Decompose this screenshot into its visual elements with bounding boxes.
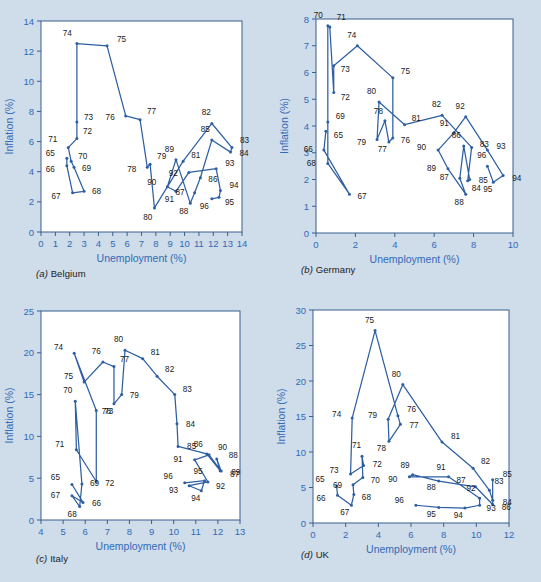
point-label-73: 73 [329, 466, 339, 475]
point-label-96: 96 [477, 151, 487, 160]
x-tick-label: 14 [237, 238, 248, 249]
point-label-80: 80 [367, 87, 377, 96]
point-label-85: 85 [201, 125, 211, 134]
plot-area [316, 19, 513, 233]
data-point [350, 504, 353, 507]
data-point [441, 114, 444, 117]
y-tick-label: 8 [304, 14, 309, 25]
data-point [75, 448, 78, 451]
x-tick-label: 11 [194, 238, 204, 249]
panel-uk: 051015202530024681012Unemployment (%)Inf… [271, 291, 541, 582]
y-tick-label: 8 [29, 106, 34, 117]
data-point [378, 100, 381, 103]
data-point [437, 480, 440, 483]
point-label-71: 71 [352, 441, 362, 450]
point-label-81: 81 [412, 114, 422, 123]
data-point [218, 196, 221, 199]
point-label-93: 93 [496, 142, 506, 151]
data-point [356, 44, 359, 47]
x-tick-label: 6 [432, 239, 437, 250]
point-label-79: 79 [357, 138, 367, 147]
caption-country: Germany [313, 264, 356, 275]
point-label-88: 88 [455, 198, 465, 207]
y-tick-label: 30 [295, 305, 306, 316]
data-point [446, 167, 449, 170]
point-label-94: 94 [454, 511, 464, 520]
data-point [408, 475, 411, 478]
point-label-65: 65 [316, 475, 326, 484]
data-point [139, 118, 142, 121]
data-point [437, 149, 440, 152]
x-axis-label: Unemployment (%) [96, 540, 186, 552]
point-label-85: 85 [503, 470, 513, 479]
data-point [376, 138, 379, 141]
point-label-72: 72 [105, 479, 115, 488]
point-label-66: 66 [304, 145, 314, 154]
data-point [387, 141, 390, 144]
point-label-88: 88 [427, 483, 437, 492]
point-label-69: 69 [82, 164, 92, 173]
data-point [193, 191, 196, 194]
data-point [67, 146, 70, 149]
point-label-65: 65 [46, 149, 56, 158]
point-label-90: 90 [417, 143, 427, 152]
data-point [326, 120, 329, 123]
data-point [348, 193, 351, 196]
data-point [220, 470, 223, 473]
point-label-81: 81 [151, 348, 161, 357]
point-label-89: 89 [427, 164, 437, 173]
data-point [362, 464, 365, 467]
y-tick-label: 6 [304, 67, 309, 78]
point-label-93: 93 [169, 486, 179, 495]
point-label-95: 95 [194, 467, 204, 476]
point-label-74: 74 [54, 343, 64, 352]
data-point [396, 414, 399, 417]
point-label-79: 79 [368, 411, 378, 420]
panel-germany: 0123456780246810Unemployment (%)Inflatio… [271, 0, 541, 291]
y-tick-label: 25 [23, 306, 34, 317]
data-point [70, 494, 73, 497]
caption-letter: (d) [301, 549, 313, 560]
point-label-90: 90 [388, 475, 398, 484]
point-label-91: 91 [436, 463, 446, 472]
y-tick-label: 4 [29, 166, 34, 177]
point-label-70: 70 [314, 11, 324, 20]
data-point [210, 122, 213, 125]
data-point [177, 445, 180, 448]
point-label-71: 71 [48, 135, 58, 144]
data-point [65, 157, 68, 160]
data-point [200, 489, 203, 492]
y-axis-label: Inflation (%) [3, 387, 15, 443]
data-point [478, 504, 481, 507]
x-tick-label: 11 [191, 526, 201, 537]
data-point [326, 162, 329, 165]
data-point [352, 483, 355, 486]
caption-germany: (b) Germany [301, 264, 355, 275]
point-label-87: 87 [440, 173, 450, 182]
data-point [182, 160, 185, 163]
point-label-92: 92 [466, 484, 476, 493]
data-point [183, 481, 186, 484]
point-label-91: 91 [174, 455, 184, 464]
data-point [210, 197, 213, 200]
point-label-84: 84 [240, 149, 250, 158]
data-point [352, 493, 355, 496]
data-point [414, 504, 417, 507]
point-label-83: 83 [480, 140, 490, 149]
chart-italy: 051015202545678910111213Unemployment (%)… [0, 291, 271, 582]
point-label-95: 95 [483, 185, 493, 194]
data-point [478, 497, 481, 500]
y-tick-label: 6 [29, 136, 34, 147]
data-point [73, 166, 76, 169]
data-point [95, 409, 98, 412]
x-tick-label: 9 [149, 526, 154, 537]
data-point [229, 151, 232, 154]
x-tick-label: 0 [310, 529, 315, 540]
data-point [199, 176, 202, 179]
data-point [361, 476, 364, 479]
data-point [399, 423, 402, 426]
point-label-87: 87 [176, 188, 186, 197]
y-tick-label: 2 [304, 174, 309, 185]
data-point [401, 383, 404, 386]
point-label-68: 68 [68, 510, 78, 519]
